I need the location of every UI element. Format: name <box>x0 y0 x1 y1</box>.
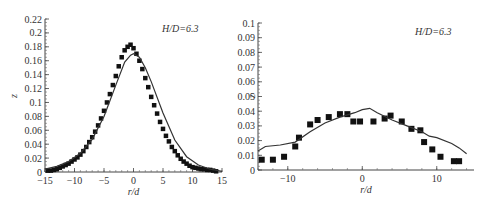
data-marker <box>146 85 151 90</box>
x-tick-label: 10 <box>188 175 198 186</box>
y-tick-label: 0.02 <box>238 135 256 146</box>
x-tick-label: 10 <box>432 173 442 184</box>
data-marker <box>140 67 145 72</box>
data-marker <box>131 46 136 51</box>
y-tick-label: 0.02 <box>25 153 43 164</box>
chart-canvas: 00.020.040.060.080.10.120.140.160.180.20… <box>0 0 488 205</box>
data-marker <box>170 145 175 150</box>
data-marker <box>315 117 321 123</box>
chart-2: 00.010.020.030.040.050.060.070.080.090.1… <box>238 18 475 196</box>
x-tick-label: 0 <box>360 173 365 184</box>
y-axis-label: z <box>8 94 19 99</box>
data-marker <box>114 74 119 79</box>
x-tick-label: −15 <box>37 175 53 186</box>
x-tick-label: 5 <box>161 175 166 186</box>
data-marker <box>270 157 276 163</box>
x-tick-label: −10 <box>280 173 296 184</box>
x-tick-label: 15 <box>217 175 227 186</box>
data-marker <box>149 95 154 100</box>
simulated-line <box>258 108 467 154</box>
y-tick-label: 0.1 <box>243 18 256 29</box>
data-marker <box>161 127 166 132</box>
y-tick-label: 0.18 <box>25 41 43 52</box>
data-marker <box>152 103 157 108</box>
y-tick-label: 0.22 <box>25 14 43 25</box>
y-tick-label: 0.12 <box>25 83 43 94</box>
y-tick-label: 0.04 <box>25 139 43 150</box>
y-tick-label: 0.16 <box>25 55 43 66</box>
data-marker <box>421 139 427 145</box>
y-tick-label: 0 <box>250 165 255 176</box>
annotation-hd: H/D=6.3 <box>414 26 451 37</box>
data-marker <box>155 111 160 116</box>
x-axis-label: r/d <box>128 186 141 197</box>
x-tick-label: −10 <box>67 175 83 186</box>
data-marker <box>350 118 356 124</box>
y-tick-label: 0.2 <box>30 27 43 38</box>
data-marker <box>164 134 169 139</box>
annotation-hd: H/D=6.3 <box>161 23 198 34</box>
data-marker <box>429 146 435 152</box>
data-marker <box>117 64 122 69</box>
y-tick-label: 0.07 <box>238 62 256 73</box>
simulated-line <box>45 54 222 172</box>
data-marker <box>143 76 148 81</box>
data-marker <box>167 139 172 144</box>
y-tick-label: 0.01 <box>238 150 256 161</box>
y-tick-label: 0.08 <box>238 47 256 58</box>
x-axis-label: r/d <box>360 184 373 195</box>
data-marker <box>119 55 124 60</box>
data-marker <box>357 118 363 124</box>
data-marker <box>451 158 457 164</box>
data-marker <box>307 121 313 127</box>
data-marker <box>326 114 332 120</box>
data-marker <box>281 154 287 160</box>
data-marker <box>437 154 443 160</box>
data-marker <box>370 118 376 124</box>
y-tick-label: 0.06 <box>238 76 256 87</box>
y-tick-label: 0.06 <box>25 125 43 136</box>
y-tick-label: 0.03 <box>238 120 256 131</box>
chart-1: 00.020.040.060.080.10.120.140.160.180.20… <box>8 14 227 198</box>
y-tick-label: 0.1 <box>30 97 43 108</box>
data-marker <box>158 120 163 125</box>
y-tick-label: 0.14 <box>25 69 43 80</box>
data-marker <box>292 143 298 149</box>
data-marker <box>173 149 178 154</box>
x-tick-label: −5 <box>99 175 110 186</box>
y-axis-label: z <box>246 94 257 99</box>
data-marker <box>456 158 462 164</box>
y-tick-label: 0.04 <box>238 106 256 117</box>
y-tick-label: 0.08 <box>25 111 43 122</box>
x-tick-label: 0 <box>131 175 136 186</box>
y-tick-label: 0.09 <box>238 32 256 43</box>
data-marker <box>259 157 265 163</box>
data-marker <box>111 83 116 88</box>
